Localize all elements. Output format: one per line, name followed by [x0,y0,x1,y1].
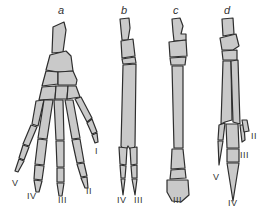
panel-label-d: d [224,4,231,16]
panel-c-foot-skeleton [167,18,189,202]
panel-a-hand-skeleton [15,22,98,196]
digit-label-d-II: II [251,131,257,141]
digit-label-d-V: V [213,172,220,182]
panel-label-a: a [58,4,64,16]
digit-label-a-IV: IV [27,191,37,201]
digit-label-d-IV: IV [228,198,238,208]
digit-label-b-IV: IV [117,195,127,205]
digit-label-a-V: V [12,178,19,188]
digit-label-a-II: II [86,186,92,196]
digit-label-d-III: III [240,150,249,160]
digit-label-b-III: III [134,195,143,205]
digit-label-a-III: III [58,195,67,205]
digit-label-a-I: I [95,146,98,156]
panel-d-foot-skeleton [218,18,249,201]
digit-label-c-III: III [173,195,182,205]
limb-skeleton-diagram: a b c d V IV III II I IV III III V IV II… [0,0,262,216]
panel-label-c: c [173,4,179,16]
panel-label-b: b [121,4,127,16]
panel-b-foot-skeleton [119,18,137,195]
